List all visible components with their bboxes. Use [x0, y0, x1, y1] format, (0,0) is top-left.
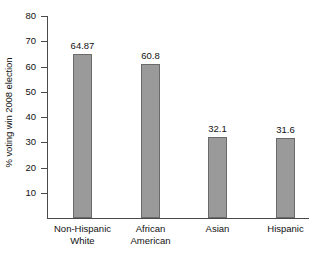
y-axis-tick-label: 40	[25, 112, 36, 122]
y-axis-tick	[41, 168, 47, 169]
y-axis-tick-label: 80	[25, 11, 36, 21]
y-axis-tick-label: 10	[25, 188, 36, 198]
y-axis-tick-label: 20	[25, 163, 36, 173]
bar-value-label: 60.8	[141, 51, 160, 61]
x-axis-category-label: Non-HispanicWhite	[54, 223, 111, 247]
x-axis-category-label: Asian	[206, 223, 230, 235]
x-axis-category-label: Hispanic	[267, 223, 303, 235]
x-axis-category-label-line1: Non-Hispanic	[54, 223, 111, 234]
bar	[73, 54, 92, 218]
x-axis-category-label-line2: White	[54, 235, 111, 247]
bar	[141, 64, 160, 218]
x-axis-category-label-line1: Hispanic	[267, 223, 303, 234]
y-axis-line	[47, 16, 48, 219]
bar-value-label: 64.87	[71, 41, 95, 51]
y-axis-tick-label: 50	[25, 87, 36, 97]
x-axis-category-label-line2: American	[130, 235, 170, 247]
y-axis-tick-label: 70	[25, 36, 36, 46]
bar-value-label: 32.1	[208, 124, 227, 134]
y-axis-tick	[41, 117, 47, 118]
y-axis-tick	[41, 67, 47, 68]
y-axis-tick-label: 60	[25, 62, 36, 72]
bar-chart-figure: % voting win 2008 election 1020304050607…	[0, 0, 317, 265]
y-axis-tick	[41, 92, 47, 93]
bar-value-label: 31.6	[276, 125, 295, 135]
y-axis-tick	[41, 142, 47, 143]
y-axis-tick	[41, 16, 47, 17]
y-axis-tick-label: 30	[25, 137, 36, 147]
bar	[276, 138, 295, 218]
y-axis-title-label: % voting win 2008 election	[4, 58, 15, 168]
x-axis-category-label-line1: African	[136, 223, 166, 234]
y-axis-tick	[41, 41, 47, 42]
y-axis-title: % voting win 2008 election	[0, 0, 18, 225]
x-axis-category-label: AfricanAmerican	[130, 223, 170, 247]
bar	[208, 137, 227, 218]
x-axis-category-label-line1: Asian	[206, 223, 230, 234]
y-axis-tick	[41, 193, 47, 194]
x-axis-line	[47, 218, 309, 219]
